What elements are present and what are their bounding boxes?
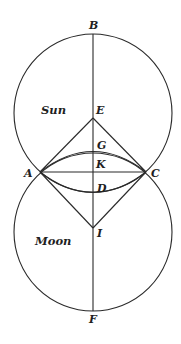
line-CI [93,172,146,228]
label-G: G [97,139,106,152]
label-E: E [95,104,105,117]
label-K: K [95,158,106,171]
sun-moon-diagram: B E G K A C D I F Sun Moon [0,0,181,344]
label-A: A [23,167,33,180]
label-B: B [88,19,98,32]
label-sun: Sun [41,103,66,117]
label-D: D [96,182,107,195]
label-moon: Moon [34,234,71,248]
line-AI [40,172,93,228]
label-C: C [151,167,160,180]
label-F: F [88,313,98,326]
label-I: I [96,227,103,240]
line-AE [40,118,93,172]
